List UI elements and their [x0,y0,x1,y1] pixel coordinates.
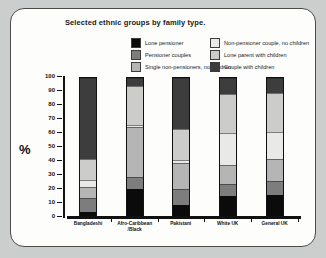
legend-item: Lone parent with children [210,50,287,60]
stacked-bar-pakistani [172,77,190,217]
bar-segment [220,184,236,196]
stacked-bar-general-uk [266,77,284,217]
bar-segment [80,78,96,159]
bar-segment [220,94,236,133]
chart-panel: Selected ethnic groups by family type. %… [10,8,316,247]
bar-segment [267,132,283,160]
bar-segment [220,78,236,95]
bar-segment [267,78,283,93]
y-tick-label: 30 [37,171,55,177]
bar-segment [173,129,189,161]
y-axis-line [63,76,65,218]
legend-label: Non-pensioner couple, no children [224,40,309,46]
y-tick-label: 50 [37,143,55,149]
y-tick-mark [57,174,62,175]
bar-segment [127,189,143,215]
y-tick-mark [57,132,62,133]
bar-segment [267,159,283,181]
legend-label: Lone parent with children [224,52,287,58]
legend-label: Couple with children [224,64,274,70]
y-tick-label: 70 [37,115,55,121]
x-category-label: Pakistani [158,221,204,227]
legend-item: Pensioner couples [131,50,191,60]
y-tick-label: 10 [37,199,55,205]
legend-swatch [210,62,220,72]
x-category-label: Bangladeshi [65,221,111,227]
bar-segment [127,86,143,125]
legend-label: Lone pensioner [145,40,184,46]
x-category-label: General UK [252,221,298,227]
bar-segment [220,165,236,184]
bar-segment [80,198,96,212]
y-tick-mark [57,146,62,147]
y-tick-label: 80 [37,101,55,107]
legend-item: Lone pensioner [131,38,184,48]
legend-item: Couple with children [210,62,274,72]
bar-segment [173,189,189,204]
bar-segment [127,127,143,177]
bar-segment [173,163,189,189]
y-tick-mark [57,216,62,217]
bar-segment [173,205,189,216]
y-tick-label: 60 [37,129,55,135]
y-tick-mark [57,160,62,161]
bar-segment [267,93,283,132]
legend-swatch [131,50,141,60]
bar-segment [220,196,236,215]
legend-swatch [210,38,220,48]
bar-segment [267,181,283,195]
chart-title: Selected ethnic groups by family type. [65,18,206,27]
stacked-bar-bangladeshi [79,77,97,217]
x-category-label: White UK [205,221,251,227]
x-tick-mark [298,219,299,222]
bar-segment [173,78,189,129]
y-tick-label: 20 [37,185,55,191]
bar-segment [80,159,96,180]
bar-segment [80,187,96,198]
bar-segment [80,212,96,216]
y-tick-mark [57,90,62,91]
y-tick-mark [57,76,62,77]
x-category-label: Afro-Caribbean /Black [112,221,158,233]
y-tick-mark [57,188,62,189]
y-axis-label: % [19,142,31,157]
bar-segment [127,78,143,86]
bar-segment [127,177,143,189]
legend-label: Pensioner couples [145,52,191,58]
legend-swatch [131,62,141,72]
bar-segment [220,133,236,165]
y-tick-label: 40 [37,157,55,163]
legend-swatch [131,38,141,48]
bar-segment [80,180,96,187]
y-tick-mark [57,202,62,203]
y-tick-label: 100 [37,73,55,79]
y-tick-mark [57,104,62,105]
y-tick-label: 90 [37,87,55,93]
y-tick-mark [57,118,62,119]
stacked-bar-afro-caribbean-black [126,77,144,217]
stacked-bar-white-uk [219,77,237,217]
bar-segment [267,195,283,216]
legend-swatch [210,50,220,60]
legend-item: Non-pensioner couple, no children [210,38,309,48]
y-tick-label: 0 [37,213,55,219]
